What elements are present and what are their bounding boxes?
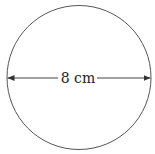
diameter-label: 8 cm xyxy=(61,70,95,86)
circle-diagram: 8 cm xyxy=(0,0,155,154)
